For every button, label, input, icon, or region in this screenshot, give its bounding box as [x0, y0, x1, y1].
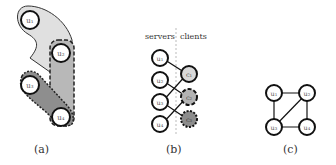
svg-text:u₄: u₄ — [57, 114, 65, 122]
node-u3: u₃ — [21, 76, 39, 94]
svg-text:u₃: u₃ — [271, 124, 278, 132]
client-c1: c₁ — [181, 66, 197, 82]
caption-b: (b) — [166, 143, 182, 156]
figure: u₁ u₂ u₃ u₄ u₁ u₂ u₃ u₄ c₁ c₂ c₃ u₁ u — [0, 0, 336, 165]
svg-text:u₂: u₂ — [157, 77, 164, 85]
svg-text:u₂: u₂ — [304, 90, 311, 98]
servers-label: servers — [145, 32, 175, 41]
svg-text:c₁: c₁ — [186, 71, 193, 79]
c-node-u3: u₃ — [266, 119, 282, 135]
node-u2: u₂ — [52, 44, 70, 62]
client-c2: c₂ — [181, 89, 197, 105]
panel-b: u₁ u₂ u₃ u₄ c₁ c₂ c₃ — [152, 28, 197, 135]
c-node-u1: u₁ — [266, 85, 282, 101]
caption-a: (a) — [34, 143, 49, 156]
panel-a: u₁ u₂ u₃ u₄ — [18, 6, 75, 126]
svg-text:c₂: c₂ — [186, 94, 193, 102]
c-node-u4: u₄ — [299, 119, 315, 135]
clients-label: clients — [180, 32, 207, 41]
server-u2: u₂ — [152, 72, 168, 88]
svg-text:u₁: u₁ — [26, 17, 34, 25]
client-c3: c₃ — [181, 111, 197, 127]
svg-text:u₃: u₃ — [157, 99, 164, 107]
caption-c: (c) — [283, 143, 298, 156]
svg-text:u₁: u₁ — [157, 55, 164, 63]
server-u3: u₃ — [152, 94, 168, 110]
svg-text:u₂: u₂ — [57, 50, 65, 58]
svg-text:u₄: u₄ — [304, 124, 311, 132]
server-u4: u₄ — [152, 116, 168, 132]
c-node-u2: u₂ — [299, 85, 315, 101]
svg-text:u₃: u₃ — [26, 82, 34, 90]
server-u1: u₁ — [152, 50, 168, 66]
svg-text:u₁: u₁ — [271, 90, 278, 98]
panel-c: u₁ u₂ u₃ u₄ — [266, 85, 315, 135]
node-u1: u₁ — [21, 11, 39, 29]
svg-text:c₃: c₃ — [186, 116, 193, 124]
node-u4: u₄ — [52, 108, 70, 126]
svg-text:u₄: u₄ — [157, 121, 164, 129]
